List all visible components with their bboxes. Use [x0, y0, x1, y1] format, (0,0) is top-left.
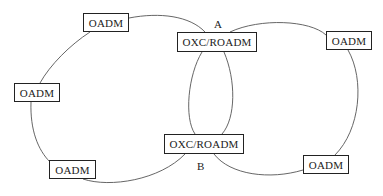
- node-label: OXC/ROADM: [169, 138, 238, 150]
- oadm-bottom-left-node: OADM: [49, 160, 96, 179]
- link-oxc-a-to-oxc-b-left: [189, 52, 202, 134]
- oxc-roadm-b-node: OXC/ROADM: [164, 134, 244, 154]
- link-oxc-a-to-oxc-b-right: [222, 52, 233, 134]
- oadm-right-node: OADM: [326, 31, 372, 50]
- link-oadm-right-to-oadm-bottom-right: [335, 50, 358, 155]
- node-label: OXC/ROADM: [182, 36, 251, 48]
- link-oadm-top-left-to-oxc-a: [129, 15, 205, 32]
- node-label: OADM: [55, 164, 89, 176]
- oadm-bottom-right-node: OADM: [303, 155, 349, 174]
- oadm-left-node: OADM: [14, 83, 60, 102]
- link-oadm-bottom-left-to-oxc-b: [83, 154, 185, 183]
- node-label: OADM: [309, 159, 343, 171]
- node-b-label: B: [197, 160, 204, 172]
- node-label: OADM: [20, 87, 54, 99]
- link-oadm-top-left-to-oadm-left: [40, 32, 90, 83]
- node-label: OADM: [89, 17, 123, 29]
- link-oadm-bottom-right-to-oxc-b: [214, 154, 303, 175]
- oadm-top-left-node: OADM: [83, 13, 129, 32]
- node-label: OADM: [332, 35, 366, 47]
- link-oadm-left-to-oadm-bottom-left: [31, 102, 50, 162]
- node-a-label: A: [214, 18, 222, 30]
- oxc-roadm-a-node: OXC/ROADM: [177, 32, 257, 52]
